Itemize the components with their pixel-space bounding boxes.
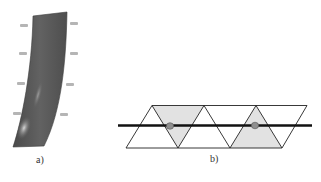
panel-b-label: b) — [210, 153, 218, 164]
intersection-point-left — [166, 123, 173, 130]
panel-b: b) — [0, 0, 321, 182]
intersection-point-right — [251, 122, 258, 129]
triangle-strip-figure — [0, 0, 321, 182]
